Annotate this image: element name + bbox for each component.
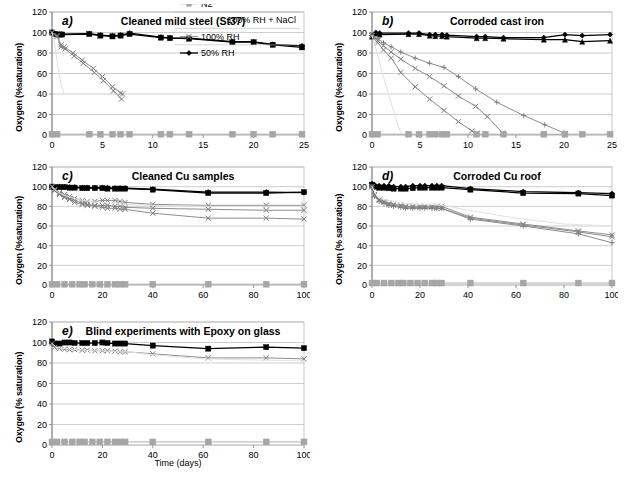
svg-text:15: 15 [511, 140, 521, 150]
panel-title-b: Corroded cast iron [382, 15, 612, 27]
svg-text:60: 60 [37, 69, 47, 79]
legend-label: 100% RH [201, 32, 240, 42]
svg-text:100: 100 [604, 290, 618, 300]
svg-text:20: 20 [357, 261, 367, 271]
svg-text:60: 60 [198, 290, 208, 300]
svg-text:20: 20 [37, 420, 47, 430]
svg-text:20: 20 [559, 140, 569, 150]
svg-text:100: 100 [352, 28, 367, 38]
svg-text:0: 0 [362, 130, 367, 140]
svg-text:10: 10 [148, 140, 158, 150]
svg-text:0: 0 [369, 290, 374, 300]
panel-title-e: Blind experiments with Epoxy on glass [62, 325, 304, 337]
panel-title-c: Cleaned Cu samples [62, 170, 304, 182]
svg-text:80: 80 [357, 48, 367, 58]
svg-text:80: 80 [37, 202, 47, 212]
y-axis-title-e: Oxygen (% saturation) [14, 352, 24, 443]
svg-text:40: 40 [357, 89, 367, 99]
svg-text:20: 20 [249, 140, 259, 150]
svg-text:80: 80 [37, 48, 47, 58]
svg-text:120: 120 [352, 162, 367, 172]
y-axis-title-c: Oxygen (%saturation) [14, 196, 24, 285]
svg-text:5: 5 [100, 140, 105, 150]
svg-text:40: 40 [37, 89, 47, 99]
y-axis-title-d: Oxygen (% saturation) [334, 194, 344, 285]
svg-text:0: 0 [42, 280, 47, 290]
svg-text:0: 0 [369, 140, 374, 150]
svg-text:60: 60 [511, 290, 521, 300]
svg-text:100: 100 [296, 290, 310, 300]
svg-text:100: 100 [32, 338, 47, 348]
svg-text:20: 20 [37, 261, 47, 271]
svg-text:40: 40 [37, 399, 47, 409]
svg-text:80: 80 [357, 202, 367, 212]
legend-label: N2 [201, 4, 213, 9]
svg-text:0: 0 [49, 140, 54, 150]
svg-text:100: 100 [352, 182, 367, 192]
svg-text:80: 80 [37, 358, 47, 368]
svg-text:40: 40 [357, 241, 367, 251]
svg-text:20: 20 [415, 290, 425, 300]
svg-text:0: 0 [42, 130, 47, 140]
panel-title-a: Cleaned mild steel (St37) [62, 15, 304, 27]
x-axis-title: Time (days) [52, 458, 304, 468]
panel-title-d: Corroded Cu roof [382, 170, 612, 182]
svg-text:40: 40 [37, 241, 47, 251]
svg-text:0: 0 [49, 290, 54, 300]
svg-text:0: 0 [362, 280, 367, 290]
svg-text:60: 60 [37, 379, 47, 389]
svg-text:20: 20 [37, 110, 47, 120]
oxygen-saturation-figure: 020406080100120051015202550% RH100% RH10… [0, 0, 630, 481]
svg-text:10: 10 [463, 140, 473, 150]
svg-text:100: 100 [32, 182, 47, 192]
svg-text:40: 40 [463, 290, 473, 300]
svg-text:25: 25 [607, 140, 617, 150]
y-axis-title-b: Oxygen (%saturation) [334, 43, 344, 132]
legend-label: 50% RH [201, 48, 235, 58]
svg-text:60: 60 [37, 221, 47, 231]
svg-text:120: 120 [32, 162, 47, 172]
svg-text:100: 100 [32, 28, 47, 38]
svg-text:15: 15 [198, 140, 208, 150]
svg-text:80: 80 [249, 290, 259, 300]
svg-text:0: 0 [42, 440, 47, 450]
svg-text:120: 120 [32, 7, 47, 17]
svg-text:20: 20 [97, 290, 107, 300]
svg-text:60: 60 [357, 221, 367, 231]
svg-text:120: 120 [32, 317, 47, 327]
svg-text:20: 20 [357, 110, 367, 120]
svg-text:120: 120 [352, 7, 367, 17]
svg-text:60: 60 [357, 69, 367, 79]
svg-text:80: 80 [559, 290, 569, 300]
svg-text:5: 5 [417, 140, 422, 150]
y-axis-title-a: Oxygen (%saturation) [14, 43, 24, 132]
svg-text:40: 40 [148, 290, 158, 300]
svg-text:25: 25 [299, 140, 309, 150]
